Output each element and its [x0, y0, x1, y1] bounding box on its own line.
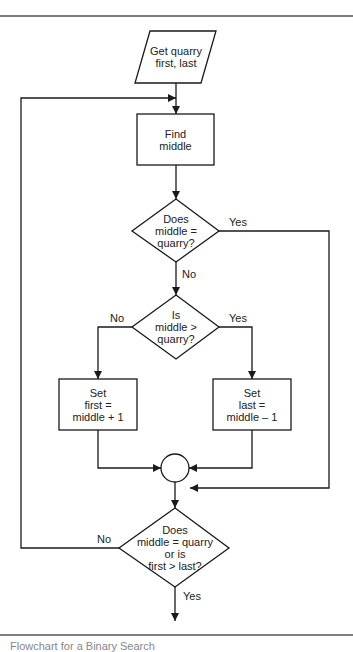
label-loop-yes: Yes	[183, 590, 201, 602]
edge-last-to-connector	[189, 430, 252, 468]
decision-loop-text: Does middle = quarry or is first > last?	[125, 522, 225, 574]
label-equal-no: No	[182, 268, 196, 280]
edge-equal-yes	[190, 231, 329, 488]
connector-circle	[161, 454, 189, 482]
input-text: Get quarry first, last	[140, 38, 212, 76]
set-last-text: Set last = middle – 1	[213, 379, 291, 430]
edge-greater-no	[98, 327, 132, 379]
label-equal-yes: Yes	[229, 216, 247, 228]
decision-equal-text: Does middle = quarry?	[136, 210, 216, 252]
label-loop-no: No	[97, 533, 111, 545]
label-greater-yes: Yes	[229, 312, 247, 324]
decision-greater-text: Is middle > quarry?	[136, 306, 216, 348]
label-greater-no: No	[110, 312, 124, 324]
find-middle-text: Find middle	[137, 114, 214, 165]
set-first-text: Set first = middle + 1	[59, 379, 137, 430]
edge-greater-yes	[219, 327, 252, 379]
edge-first-to-connector	[98, 430, 161, 468]
figure-caption: Flowchart for a Binary Search	[10, 640, 155, 652]
